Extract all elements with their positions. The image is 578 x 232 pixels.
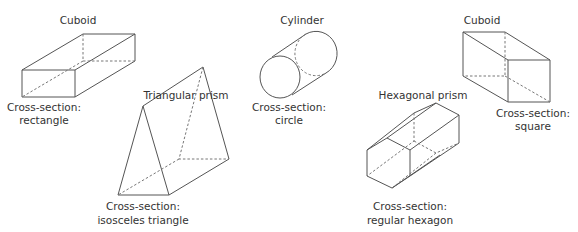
cross-section-label-5: Cross-section:: [496, 107, 570, 120]
cross-section-value-2: isosceles triangle: [97, 214, 188, 227]
cross-section-label-2: Cross-section:: [106, 200, 180, 213]
cross-section-label-3: Cross-section:: [252, 101, 326, 114]
cuboid-rectangle-figure: [22, 34, 135, 97]
cylinder-figure: [260, 31, 337, 98]
shape-title-cuboid-2: Cuboid: [464, 14, 501, 27]
cross-section-value-5: square: [515, 120, 551, 133]
hexagonal-prism-figure: [367, 103, 459, 188]
shape-title-cuboid-1: Cuboid: [60, 14, 97, 27]
cross-section-value-1: rectangle: [19, 114, 69, 127]
cross-section-label-1: Cross-section:: [7, 101, 81, 114]
triangular-prism-figure: [118, 67, 229, 195]
cross-section-label-4: Cross-section:: [373, 200, 447, 213]
shape-title-triangular-prism: Triangular prism: [143, 89, 228, 102]
cross-section-value-3: circle: [275, 114, 303, 127]
cuboid-square-figure: [463, 32, 550, 102]
shape-title-hexagonal-prism: Hexagonal prism: [379, 89, 468, 102]
shape-title-cylinder: Cylinder: [280, 14, 323, 27]
cross-section-value-4: regular hexagon: [367, 214, 453, 227]
